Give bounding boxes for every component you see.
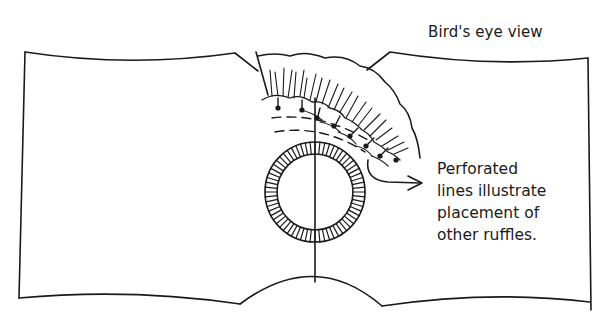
annotation-line: lines illustrate	[437, 180, 597, 202]
annotation-line: Perforated	[437, 158, 597, 180]
pointer-arrow	[368, 160, 422, 190]
annotation-line: placement of	[437, 202, 597, 224]
annotation-line: other ruffles.	[437, 224, 597, 246]
annotation-text: Perforated lines illustrate placement of…	[437, 158, 597, 246]
diagram-title: Bird's eye view	[428, 23, 543, 41]
